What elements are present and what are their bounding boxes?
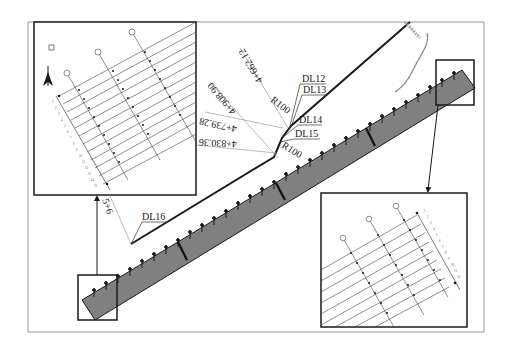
station-4-662-12: 4+662.12 <box>236 47 265 86</box>
label-dl13: DL13 <box>303 84 326 95</box>
label-dl15: DL15 <box>295 128 318 139</box>
label-r100-bottom: R100 <box>280 139 304 160</box>
label-r100-top: R100 <box>269 94 293 116</box>
detail-inset-upper-left: 123 456 789 101112 131415 <box>34 22 196 195</box>
label-dl14: DL14 <box>299 114 322 125</box>
svg-text:10: 10 <box>79 154 83 158</box>
station-4-908-90: 4+908.90 <box>205 81 238 117</box>
arrow-to-lower-right-inset <box>428 105 438 190</box>
station-5-6: 5+6 <box>100 197 116 215</box>
engineering-diagram: DL12 DL13 DL14 DL15 DL16 R100 R100 4+662… <box>0 0 512 351</box>
svg-text:13: 13 <box>88 172 92 176</box>
contour-curve <box>395 22 428 92</box>
station-4-739-28: 4+739.28 <box>198 116 238 135</box>
label-dl16: DL16 <box>142 211 165 222</box>
svg-text:15: 15 <box>94 184 98 188</box>
label-dl12: DL12 <box>302 73 325 84</box>
svg-text:12: 12 <box>85 166 89 170</box>
svg-text:10: 10 <box>451 263 455 267</box>
svg-text:14: 14 <box>91 178 95 182</box>
detail-inset-lower-right: 123 456 789 101112 <box>321 193 467 327</box>
svg-text:11: 11 <box>82 160 85 164</box>
svg-text:12: 12 <box>457 275 461 279</box>
station-4-830-36: 4+830.36 <box>199 137 238 150</box>
svg-text:11: 11 <box>454 269 457 273</box>
